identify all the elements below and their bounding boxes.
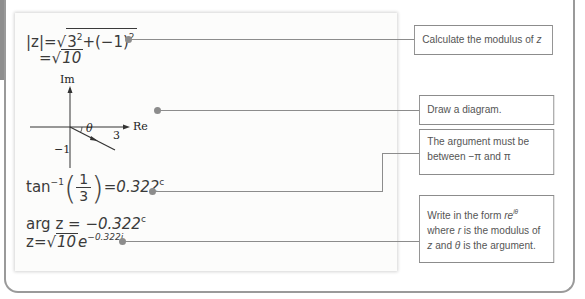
inverse-exponent: −1 (51, 177, 64, 187)
fraction: 13 (76, 171, 91, 204)
arctan-equation: tan−1(13)=0.322c (26, 171, 164, 204)
note-exponential-form: Write in the form reiθ where r is the mo… (419, 195, 554, 263)
note-text: is the argument. (460, 239, 535, 251)
note-text: Draw a diagram. (427, 103, 501, 115)
y-value-label: −1 (54, 143, 70, 156)
argand-diagram (0, 0, 200, 170)
right-paren: ) (91, 169, 103, 207)
note-calculate-modulus: Calculate the modulus of z (414, 25, 553, 55)
note-draw-diagram: Draw a diagram. (419, 95, 554, 125)
note-text: and (432, 239, 455, 251)
connector-line-final (123, 241, 419, 242)
direction-arrow-icon (90, 136, 98, 141)
arg-lhs: arg z (26, 215, 63, 233)
note-italic: z (536, 33, 541, 45)
note-text: where (427, 224, 457, 236)
note-text: Calculate the modulus of (422, 33, 536, 45)
re-axis-label: Re (133, 120, 148, 133)
x-value-label: 3 (113, 129, 120, 142)
arg-value: −0.322 (85, 215, 141, 233)
note-text: Write in the form (427, 209, 504, 221)
arg-equation: arg z = −0.322c (26, 214, 146, 233)
connector-line-argument-h2 (382, 153, 419, 154)
connector-line-argument-h1 (153, 191, 382, 192)
note-text: is the modulus of (461, 224, 540, 236)
denominator: 3 (76, 188, 91, 204)
exp-base: e (78, 233, 87, 251)
tan-function: tan (26, 178, 51, 196)
equals-sign: = (34, 233, 47, 251)
final-lhs: z (26, 233, 34, 251)
im-axis-label: Im (60, 73, 75, 86)
connector-line-diagram (158, 110, 419, 111)
numerator: 1 (76, 171, 91, 188)
exp-exponent: −0.322i (87, 232, 123, 242)
theta-label: θ (86, 122, 93, 135)
equals-sign: = (68, 215, 81, 233)
note-argument-range: The argument must be between −π and π (419, 129, 554, 175)
radian-unit: c (141, 214, 146, 224)
equals-sign: = (104, 178, 117, 196)
note-sup: iθ (513, 208, 518, 215)
connector-line-argument-v (382, 153, 383, 192)
note-italic: re (504, 209, 513, 221)
final-form-equation: z=√10e−0.322i (26, 232, 123, 251)
left-paren: ( (64, 169, 76, 207)
connector-line-modulus (129, 39, 414, 40)
sqrt-symbol: √ (46, 233, 56, 251)
final-radicand: 10 (56, 233, 78, 250)
note-text: The argument must be between −π and π (427, 135, 529, 162)
radian-unit: c (159, 177, 164, 187)
